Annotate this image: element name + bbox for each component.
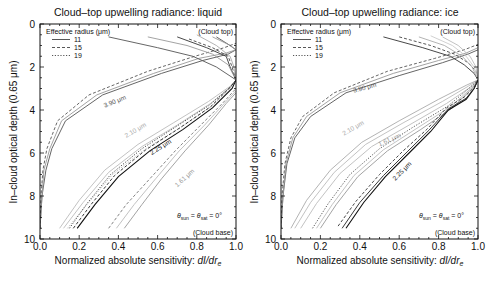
y-tick-label: 2	[29, 62, 35, 73]
legend-label: 19	[315, 52, 323, 59]
cloud-base-annotation: (Cloud base)	[435, 229, 475, 237]
series-label: 2.10 μm	[123, 121, 147, 140]
legend-title: Effective radius (μm)	[46, 28, 110, 36]
series-label: 2.10 μm	[341, 119, 365, 138]
x-axis-label: Normalized absolute sensitivity: dI/dre	[297, 255, 464, 267]
x-axis-label-italic: dI/dr	[439, 255, 460, 266]
series-line	[295, 80, 478, 228]
panel-liquid: Cloud–top upwelling radiance: liquid In–…	[8, 6, 243, 267]
y-tick-label: 0	[270, 19, 276, 30]
x-axis-label-sub: e	[459, 260, 463, 267]
y-tick-label: 0	[29, 19, 35, 30]
y-tick-label: 10	[24, 234, 36, 245]
x-axis-label-sub: e	[217, 260, 221, 267]
y-tick-label: 6	[29, 148, 35, 159]
x-tick-label: 0.2	[72, 241, 86, 252]
x-tick-label: 1.0	[229, 241, 243, 252]
cloud-base-annotation: (Cloud base)	[193, 229, 233, 237]
legend-label: 11	[315, 36, 322, 43]
x-tick-label: 0.0	[274, 241, 288, 252]
y-axis-label: In–cloud optical depth (0.65 μm)	[8, 60, 19, 203]
series-line	[313, 80, 479, 228]
series-label: 3.90 μm	[102, 93, 127, 109]
y-tick-label: 8	[270, 191, 276, 202]
panel-ice: Cloud–top upwelling radiance: ice In–clo…	[249, 6, 485, 267]
plot-area: 3.90 μm2.10 μm2.25 μm1.61 μm0.00.20.40.6…	[24, 19, 244, 252]
cloud-top-annotation: (Cloud top)	[440, 28, 475, 36]
x-tick-label: 0.6	[392, 241, 406, 252]
series-group	[281, 36, 478, 229]
y-tick-label: 8	[29, 191, 35, 202]
series-line	[291, 80, 478, 228]
series-label: 2.25 μm	[391, 160, 413, 182]
figure: Cloud–top upwelling radiance: liquid In–…	[0, 0, 495, 282]
legend-label: 11	[74, 36, 81, 43]
series-line	[320, 80, 478, 228]
x-axis-label-text: Normalized absolute sensitivity:	[55, 255, 198, 266]
legend-title: Effective radius (μm)	[287, 28, 351, 36]
chart-title: Cloud–top upwelling radiance: ice	[301, 6, 458, 18]
x-tick-label: 0.0	[33, 241, 47, 252]
y-tick-label: 4	[270, 105, 276, 116]
series-line	[317, 80, 479, 228]
series-line	[109, 37, 236, 80]
x-tick-label: 0.8	[432, 241, 446, 252]
angle-annotation: θsun = θsat = 0°	[419, 212, 464, 221]
legend-label: 15	[74, 44, 82, 51]
plot-frame	[281, 24, 478, 239]
x-tick-label: 1.0	[471, 241, 485, 252]
x-axis-label-text: Normalized absolute sensitivity:	[297, 255, 440, 266]
cloud-top-annotation: (Cloud top)	[198, 28, 233, 36]
x-tick-label: 0.6	[151, 241, 165, 252]
chart-title: Cloud–top upwelling radiance: liquid	[54, 6, 222, 18]
angle-annotation: θsun = θsat = 0°	[177, 212, 222, 221]
legend-label: 15	[315, 44, 323, 51]
series-label: 1.61 μm	[173, 167, 196, 189]
x-tick-label: 0.8	[190, 241, 204, 252]
series-line	[124, 93, 236, 229]
y-tick-label: 6	[270, 148, 276, 159]
x-tick-label: 0.2	[313, 241, 327, 252]
x-tick-label: 0.4	[111, 241, 125, 252]
x-tick-label: 0.4	[353, 241, 367, 252]
series-label: 3.90 μm	[352, 81, 377, 95]
legend: Effective radius (μm)111519	[46, 28, 110, 59]
y-tick-label: 10	[265, 234, 277, 245]
y-tick-label: 4	[29, 105, 35, 116]
plot-area: 3.90 μm2.10 μm1.61 μm2.25 μm0.00.20.40.6…	[265, 19, 486, 252]
y-tick-label: 2	[270, 62, 276, 73]
legend-label: 19	[74, 52, 82, 59]
x-axis-label-italic: dI/dr	[197, 255, 218, 266]
legend: Effective radius (μm)111519	[287, 28, 351, 59]
x-axis-label: Normalized absolute sensitivity: dI/dre	[55, 255, 222, 267]
y-axis-label: In–cloud optical depth (0.65 μm)	[249, 60, 260, 203]
series-line	[281, 48, 478, 229]
